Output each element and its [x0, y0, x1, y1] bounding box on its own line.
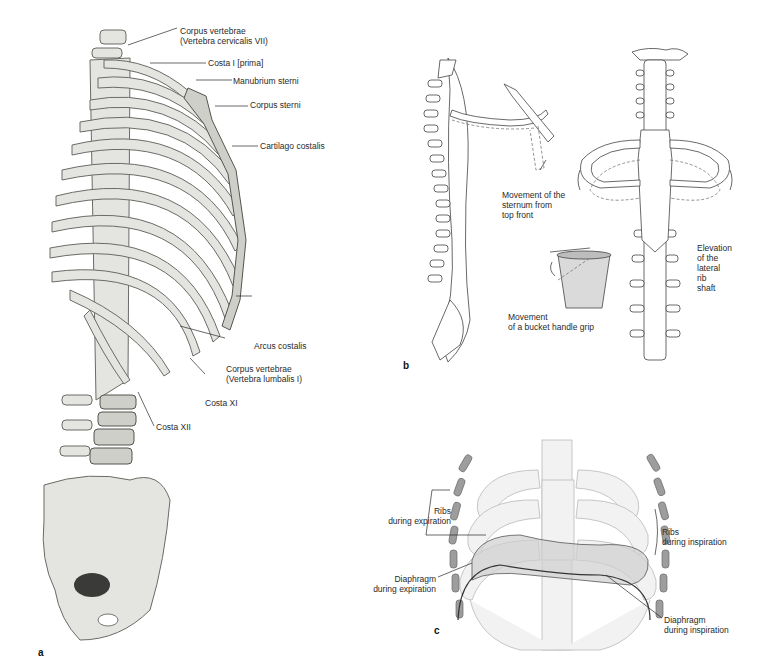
label-costa-xii: Costa XII: [156, 422, 191, 432]
label-costa-xi: Costa XI: [205, 398, 238, 408]
panel-letter-b: b: [403, 360, 409, 371]
label-arcus-costalis: Arcus costalis: [254, 341, 306, 351]
label-diaphragm-expiration: Diaphragm during expiration: [370, 574, 436, 594]
label-corpus-vertebrae-cervicalis-line2: (Vertebra cervicalis VII): [180, 36, 268, 46]
label-diaphragm-inspiration: Diaphragm during inspiration: [664, 615, 729, 635]
label-corpus-sterni: Corpus sterni: [250, 100, 301, 110]
panel-letter-a: a: [38, 647, 44, 658]
label-sternum-movement: Movement of the sternum from top front: [502, 190, 565, 220]
label-manubrium-sterni: Manubrium sterni: [233, 76, 299, 86]
label-costa-i: Costa I [prima]: [208, 58, 263, 68]
label-cartilago-costalis: Cartilago costalis: [260, 141, 325, 151]
panel-c-illustration: [0, 0, 768, 667]
label-corpus-vertebrae-cervicalis-line1: Corpus vertebrae: [180, 26, 246, 36]
label-corpus-vertebrae-lumbalis-line2: (Vertebra lumbalis I): [226, 374, 302, 384]
label-ribs-expiration: Ribs during expiration: [385, 506, 451, 526]
label-bucket-handle: Movement of a bucket handle grip: [508, 312, 594, 332]
label-ribs-inspiration: Ribs during inspiration: [662, 527, 727, 547]
panel-letter-c: c: [434, 625, 440, 636]
label-corpus-vertebrae-lumbalis-line1: Corpus vertebrae: [226, 364, 292, 374]
label-elevation-rib-shaft: Elevation of the lateral rib shaft: [697, 243, 732, 293]
